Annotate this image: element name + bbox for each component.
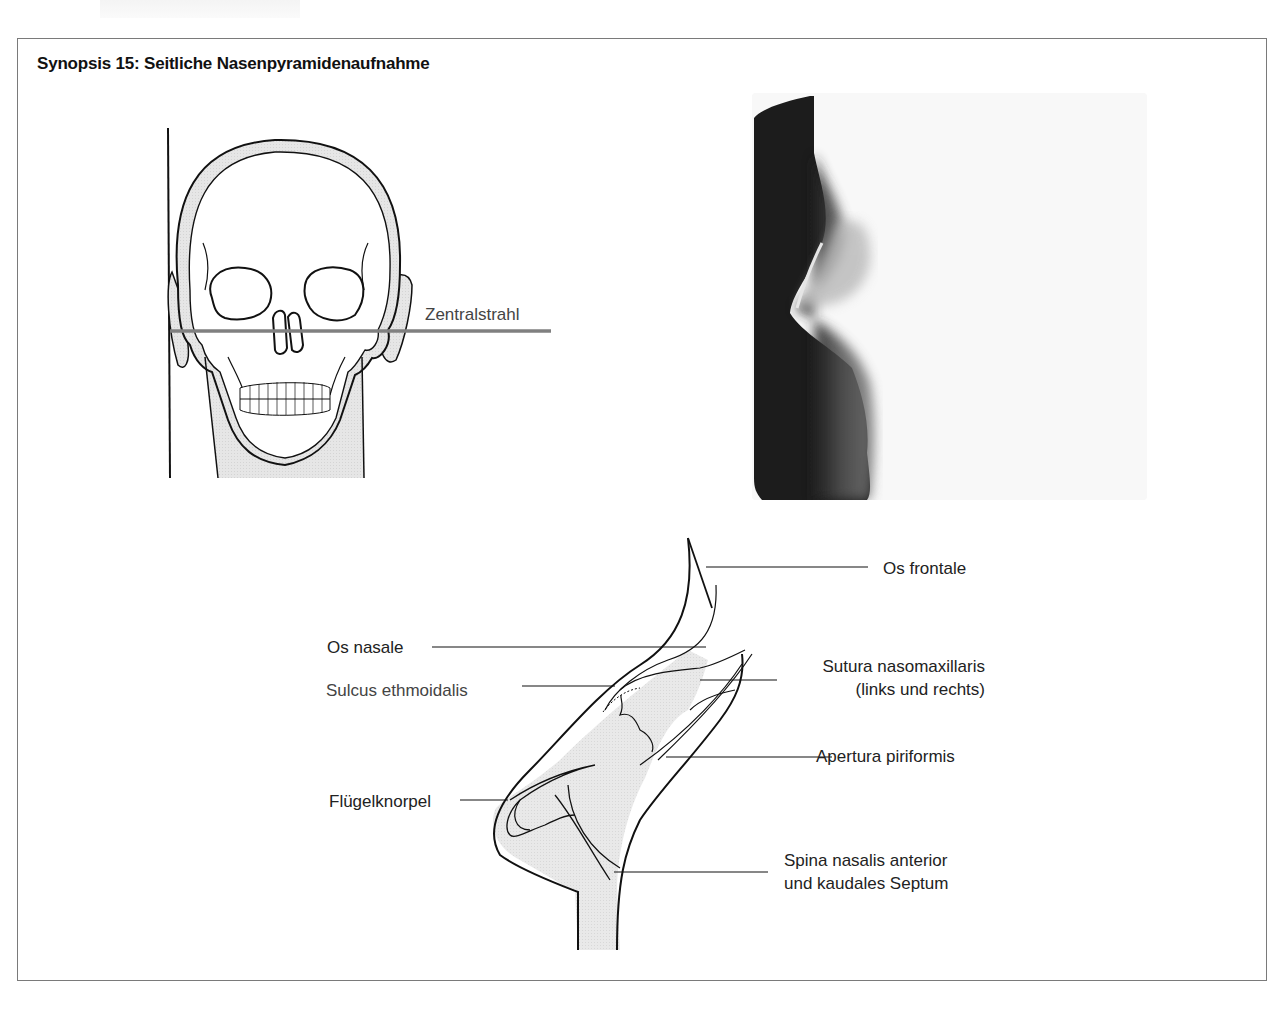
label-apertura-piriformis: Apertura piriformis [816,745,955,768]
label-spina-line2: und kaudales Septum [784,872,948,895]
label-sulcus-ethmoidalis: Sulcus ethmoidalis [326,679,468,702]
label-sutura-nasomaxillaris: Sutura nasomaxillaris (links und rechts) [822,655,985,701]
label-os-frontale: Os frontale [883,557,966,580]
label-sutura-line2: (links und rechts) [822,678,985,701]
label-spina-nasalis: Spina nasalis anterior und kaudales Sept… [784,849,948,895]
label-sutura-line1: Sutura nasomaxillaris [822,655,985,678]
label-fluegelknorpel: Flügelknorpel [329,790,431,813]
label-os-nasale: Os nasale [327,636,404,659]
label-spina-line1: Spina nasalis anterior [784,849,948,872]
nose-diagram [0,0,1287,1015]
